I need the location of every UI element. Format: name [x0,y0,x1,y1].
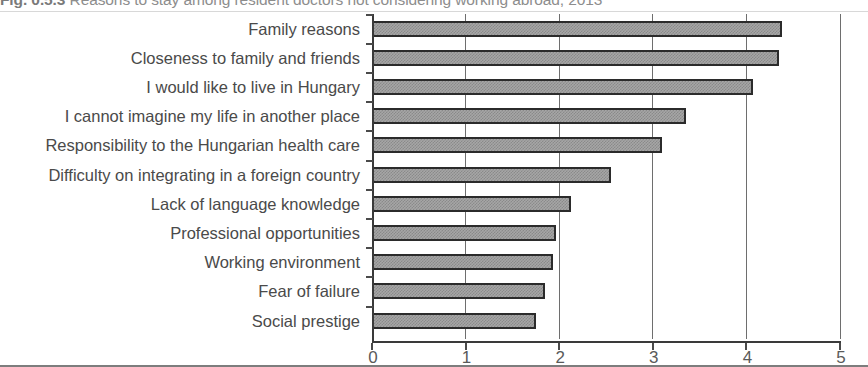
bar [372,21,782,37]
category-label: I would like to live in Hungary [146,77,360,97]
category-axis-labels: Family reasonsCloseness to family and fr… [0,14,366,339]
y-axis-tick [366,72,373,74]
x-axis-tick-label: 5 [821,348,861,367]
x-axis-tick-label: 4 [727,348,767,367]
bar [372,283,545,299]
y-axis-tick [366,276,373,278]
x-axis-tick-label: 2 [540,348,580,367]
category-label: Responsibility to the Hungarian health c… [45,135,360,155]
y-axis-tick [366,14,373,16]
category-label: Difficulty on integrating in a foreign c… [48,165,360,185]
bar [372,313,536,329]
gridline-5 [840,14,841,339]
bar [372,225,556,241]
y-axis-tick [366,189,373,191]
bar [372,50,779,66]
bar [372,167,611,183]
figure-container: Fig. 0.5.3 Reasons to stay among residen… [0,0,868,367]
category-label: I cannot imagine my life in another plac… [65,106,360,126]
x-axis-spine [372,341,841,343]
figure-title-text: Reasons to stay among resident doctors n… [70,0,603,8]
frame-top-edge [0,11,868,12]
category-label: Working environment [204,252,360,272]
figure-number: Fig. 0.5.3 [0,0,65,8]
bar [372,108,686,124]
y-axis-tick [366,306,373,308]
category-label: Lack of language knowledge [151,194,360,214]
y-axis-tick [366,160,373,162]
y-axis-tick [366,247,373,249]
category-label: Social prestige [252,311,360,331]
y-axis-tick [366,218,373,220]
y-axis-tick [366,101,373,103]
bar [372,196,571,212]
figure-title: Fig. 0.5.3 Reasons to stay among residen… [0,0,868,11]
bar [372,137,662,153]
x-axis-tick-label: 3 [634,348,674,367]
y-axis-tick [366,130,373,132]
bar [372,254,553,270]
category-label: Fear of failure [258,281,360,301]
category-label: Closeness to family and friends [131,48,360,68]
bar [372,79,753,95]
category-label: Professional opportunities [170,223,360,243]
x-axis-tick-label: 0 [353,348,393,367]
y-axis-spine [372,14,374,341]
plot-area [372,14,840,339]
category-label: Family reasons [248,19,360,39]
y-axis-tick [366,43,373,45]
x-axis-tick-label: 1 [447,348,487,367]
